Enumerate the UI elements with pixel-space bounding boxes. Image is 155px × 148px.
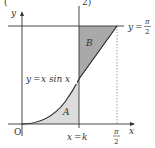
origin-label: O bbox=[14, 127, 21, 137]
svg-text:=: = bbox=[74, 132, 82, 142]
svg-text:π: π bbox=[144, 18, 150, 26]
y-axis-arrow-icon bbox=[20, 11, 24, 16]
x-tick-pi-over-2: π 2 bbox=[113, 128, 120, 146]
region-b-label: B bbox=[85, 38, 93, 48]
x-axis-label: x bbox=[129, 126, 134, 136]
label-y-pi-over-2: y = π 2 bbox=[127, 18, 151, 36]
svg-text:2: 2 bbox=[145, 28, 149, 36]
region-a-label: A bbox=[62, 107, 70, 117]
svg-text:π: π bbox=[113, 128, 119, 136]
y-axis-label: y bbox=[10, 8, 17, 18]
label-curve-equation: y = x sin x bbox=[25, 73, 77, 84]
svg-text:=: = bbox=[33, 74, 41, 84]
region-a bbox=[22, 79, 79, 124]
label-x-equals-k: x = k bbox=[67, 132, 87, 142]
svg-text:y: y bbox=[127, 22, 134, 32]
svg-text:=: = bbox=[135, 22, 143, 32]
svg-text:x sin x: x sin x bbox=[41, 74, 70, 84]
diagram: ( 2) y x O y = π 2 y = x sin x A B x = k bbox=[0, 0, 155, 148]
svg-text:y: y bbox=[25, 74, 32, 84]
svg-text:2: 2 bbox=[114, 138, 118, 146]
clipped-text-right: 2) bbox=[82, 0, 91, 7]
svg-text:k: k bbox=[82, 132, 87, 142]
clipped-text-left: ( bbox=[4, 0, 8, 7]
svg-text:x: x bbox=[67, 132, 72, 142]
